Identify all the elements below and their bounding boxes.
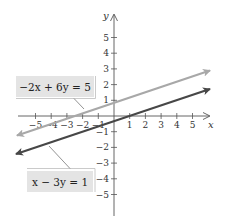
x-tick-label: 4 [174, 120, 180, 130]
x-axis-label: x [208, 119, 214, 130]
y-tick-label: 5 [103, 33, 109, 43]
x-tick-label: 3 [158, 120, 164, 130]
y-tick-label: 2 [103, 80, 109, 90]
y-tick-label: −4 [96, 174, 110, 184]
y-axis-label: y [102, 10, 109, 21]
y-tick-label: −5 [96, 190, 110, 200]
x-tick-label: −3 [60, 120, 74, 130]
y-tick-label: −3 [96, 158, 110, 168]
equation-text-2: x − 3y = 1 [32, 176, 88, 188]
leader-line-2 [49, 146, 70, 169]
equation-label-2: x − 3y = 1 [27, 146, 95, 192]
x-tick-label: −2 [76, 120, 89, 130]
coordinate-plane: −5 −4 −3 −2 −1 1 2 3 4 5 5 4 3 2 1 −1 −2… [0, 0, 226, 219]
y-tick-label: 3 [103, 64, 109, 74]
x-tick-label: 2 [143, 120, 149, 130]
y-tick-label: 4 [103, 48, 109, 58]
y-tick-label: −2 [96, 142, 109, 152]
equation-text-1: −2x + 6y = 5 [19, 81, 91, 93]
equation-label-1: −2x + 6y = 5 [16, 76, 96, 109]
leader-line-1 [74, 99, 84, 110]
x-tick-label: 1 [127, 120, 133, 130]
x-tick-label: 5 [190, 120, 196, 130]
y-tick-label: −1 [96, 127, 109, 137]
